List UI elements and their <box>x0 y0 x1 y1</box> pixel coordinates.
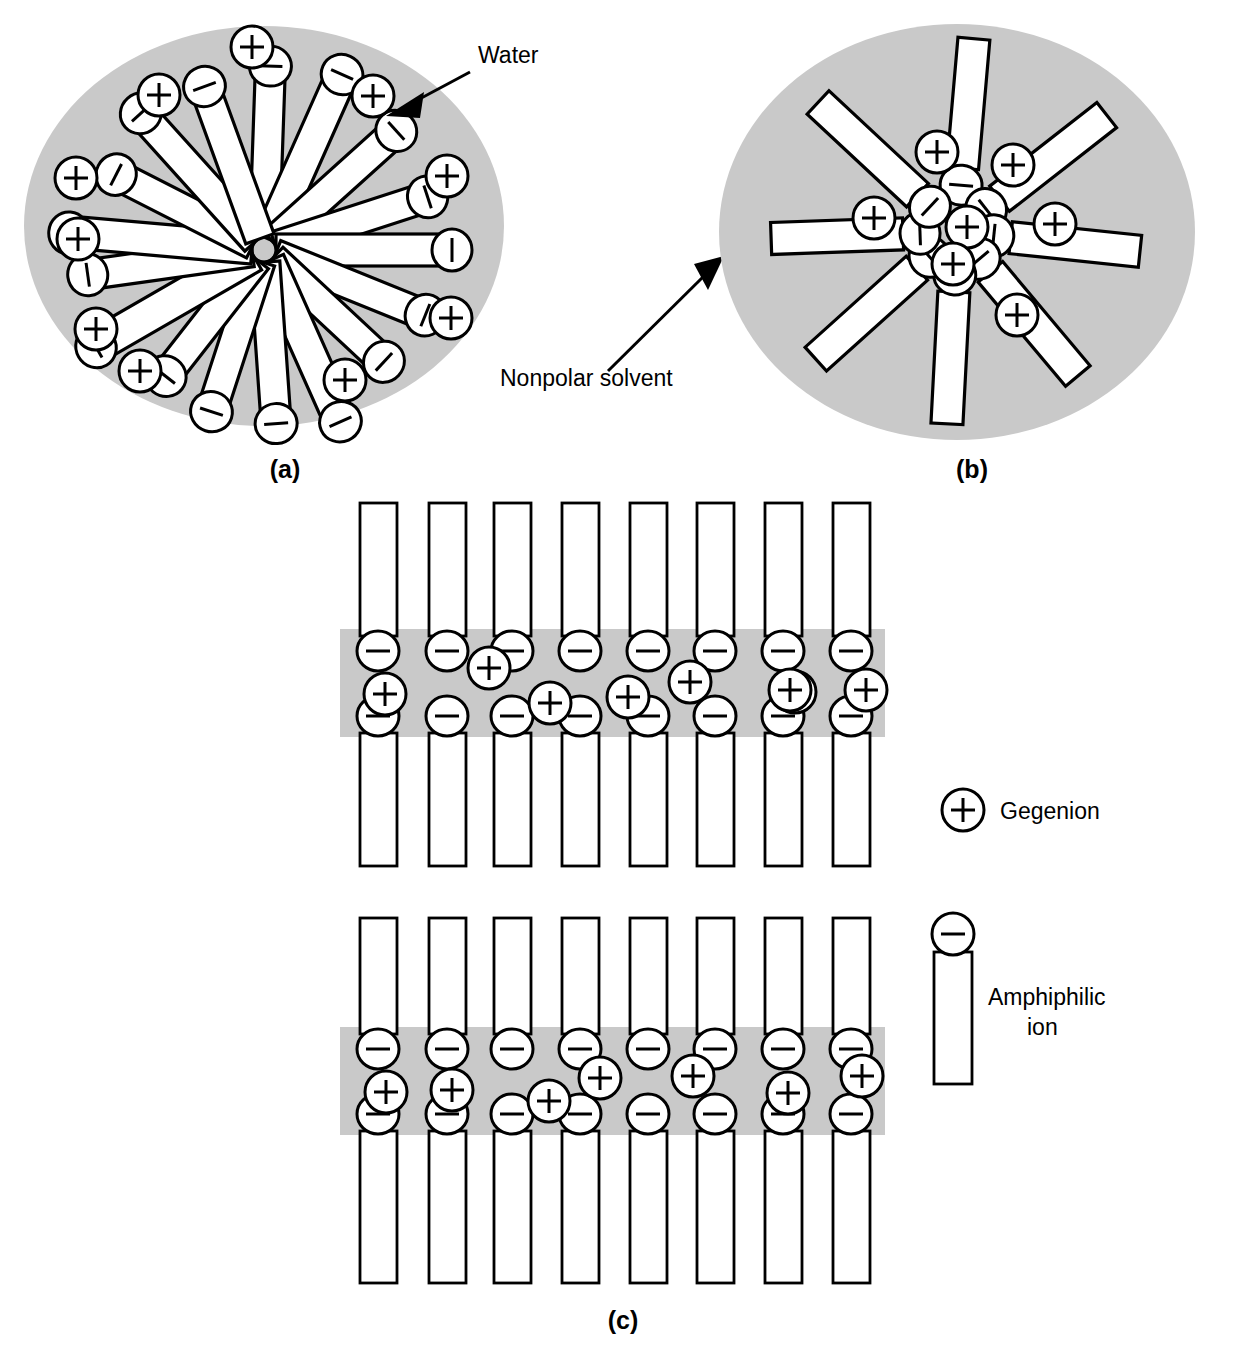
gegenion-plus <box>841 1055 883 1097</box>
legend-item-gegenion: Gegenion <box>942 789 1100 831</box>
legend-item-amphiphilic-ion: Amphiphilic ion <box>932 913 1106 1084</box>
head-group-minus <box>491 1029 533 1069</box>
gegenion-plus <box>431 1069 473 1111</box>
head-group-minus <box>694 1094 736 1134</box>
panel-b-label: (b) <box>956 455 988 483</box>
lower-leaflet-rods <box>360 1131 870 1283</box>
amphiphile-rod <box>765 918 802 1034</box>
head-group-minus <box>432 229 472 271</box>
panel-c-label: (c) <box>608 1306 639 1334</box>
gegenion-plus <box>672 1055 714 1097</box>
amphiphile-rod <box>833 733 870 866</box>
amphiphile-rod <box>562 733 599 866</box>
gegenion-plus <box>75 308 117 350</box>
amphiphile-rod <box>360 503 397 636</box>
amphiphile-rod <box>630 1131 667 1283</box>
bilayer-stack-2 <box>340 918 885 1283</box>
amphiphile-rod <box>360 733 397 866</box>
amphiphile-rod <box>562 918 599 1034</box>
head-group-minus <box>357 1029 399 1069</box>
amphiphile-rod <box>630 733 667 866</box>
head-group-minus <box>357 631 399 671</box>
head-group-minus <box>559 631 601 671</box>
head-group-minus <box>627 1029 669 1069</box>
amphiphile-rod <box>765 503 802 636</box>
amphiphile-rod <box>429 503 466 636</box>
gegenion-plus <box>845 669 887 711</box>
figure-root: (a) Water Nonpolar solvent <box>0 0 1237 1364</box>
amphiphile-rod <box>630 918 667 1034</box>
gegenion-plus <box>992 144 1034 186</box>
gegenion-plus <box>996 294 1038 336</box>
panel-c-group: (c) <box>340 503 887 1334</box>
gegenion-plus <box>528 1080 570 1122</box>
head-group-minus <box>426 1029 468 1069</box>
amphiphilic-rod-icon <box>934 952 972 1084</box>
head-group-minus-icon <box>932 913 974 955</box>
legend-label-amphiphilic-line2: ion <box>1027 1014 1058 1040</box>
head-group-minus <box>426 631 468 671</box>
gegenion-plus <box>529 682 571 724</box>
amphiphile-rod <box>697 733 734 866</box>
amphiphile-rod <box>360 918 397 1034</box>
gegenion-plus <box>138 74 180 116</box>
amphiphile-rod <box>697 1131 734 1283</box>
amphiphile-rod <box>562 503 599 636</box>
head-group-minus <box>491 696 533 736</box>
amphiphile-rod <box>931 291 970 424</box>
panel-b-group: (b) <box>719 24 1195 483</box>
amphiphile-rod <box>429 918 466 1034</box>
head-group-minus <box>762 1029 804 1069</box>
nonpolar-arrow-head <box>694 256 724 290</box>
gegenion-plus <box>769 669 811 711</box>
head-group-minus <box>830 631 872 671</box>
gegenion-plus <box>365 1071 407 1113</box>
gegenion-plus <box>607 676 649 718</box>
head-group-minus <box>426 696 468 736</box>
nonpolar-leader-line <box>608 274 706 371</box>
legend-label-amphiphilic-line1: Amphiphilic <box>988 984 1106 1010</box>
gegenion-plus <box>932 243 974 285</box>
amphiphile-rod <box>833 1131 870 1283</box>
gegenion-plus <box>426 155 468 197</box>
gegenion-plus <box>364 673 406 715</box>
head-group-minus <box>254 402 299 445</box>
amphiphile-rod <box>562 1131 599 1283</box>
head-group-minus <box>830 1094 872 1134</box>
amphiphile-rod <box>494 733 531 866</box>
water-label: Water <box>478 42 539 68</box>
gegenion-plus <box>916 131 958 173</box>
gegenion-plus <box>119 350 161 392</box>
amphiphile-rod <box>494 918 531 1034</box>
amphiphile-rod <box>494 503 531 636</box>
amphiphilic-ion-icon <box>932 913 974 1084</box>
gegenion-plus <box>231 26 273 68</box>
amphiphile-rod <box>765 733 802 866</box>
nonpolar-solvent-label: Nonpolar solvent <box>500 365 673 391</box>
upper-leaflet-rods <box>360 503 870 636</box>
amphiphile-rod <box>360 1131 397 1283</box>
panel-a-label: (a) <box>270 455 301 483</box>
nonpolar-solvent-annotation: Nonpolar solvent <box>500 256 724 391</box>
gegenion-plus <box>57 218 99 260</box>
gegenion-plus <box>55 157 97 199</box>
amphiphile-rod <box>429 1131 466 1283</box>
gegenion-plus <box>324 359 366 401</box>
amphiphile-rod <box>765 1131 802 1283</box>
amphiphile-rod <box>494 1131 531 1283</box>
lower-leaflet-rods <box>360 733 870 866</box>
amphiphile-rod <box>833 918 870 1034</box>
gegenion-plus <box>1034 203 1076 245</box>
upper-leaflet-rods <box>360 918 870 1034</box>
amphiphile-rod <box>833 503 870 636</box>
gegenion-plus <box>853 197 895 239</box>
legend-label-gegenion: Gegenion <box>1000 798 1100 824</box>
head-group-minus <box>627 631 669 671</box>
gegenion-plus <box>430 297 472 339</box>
bilayer-stack-1 <box>340 503 887 866</box>
gegenion-plus <box>767 1072 809 1114</box>
amphiphile-rod <box>630 503 667 636</box>
amphiphile-rod <box>429 733 466 866</box>
gegenion-plus-icon <box>942 789 984 831</box>
head-group-minus <box>762 631 804 671</box>
